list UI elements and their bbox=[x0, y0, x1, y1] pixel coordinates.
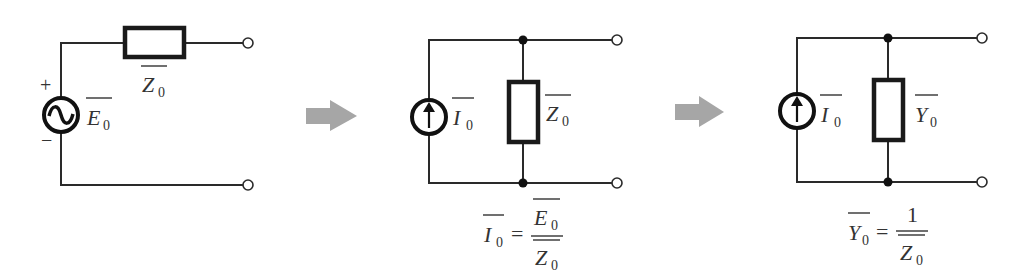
terminal-top bbox=[612, 35, 622, 45]
impedance-z0-resistor bbox=[509, 82, 538, 142]
svg-text:E: E bbox=[86, 105, 101, 130]
circuit-current-source-parallel-impedance: I 0 Z 0 I 0 = E 0 Z 0 bbox=[412, 35, 622, 273]
source-transformation-diagram: + − E 0 Z 0 I bbox=[0, 0, 1029, 277]
svg-text:=: = bbox=[511, 221, 523, 246]
label-z0: Z 0 bbox=[545, 95, 571, 129]
wire-bottom bbox=[61, 133, 243, 185]
transform-arrow-icon bbox=[306, 100, 357, 131]
transform-arrow-icon bbox=[675, 96, 724, 127]
svg-text:0: 0 bbox=[862, 233, 869, 248]
svg-text:0: 0 bbox=[103, 118, 110, 133]
label-e0: E 0 bbox=[86, 98, 112, 133]
svg-text:Z: Z bbox=[900, 240, 913, 265]
current-source-arrow-icon bbox=[780, 94, 814, 128]
terminal-bottom bbox=[612, 178, 622, 188]
svg-text:0: 0 bbox=[496, 235, 503, 250]
svg-text:=: = bbox=[876, 219, 888, 244]
svg-text:Z: Z bbox=[535, 245, 548, 270]
svg-text:0: 0 bbox=[466, 118, 473, 133]
junction-dot-top bbox=[884, 34, 893, 43]
svg-text:0: 0 bbox=[930, 115, 937, 130]
junction-dot-bottom bbox=[519, 179, 528, 188]
circuit-voltage-source-series: + − E 0 Z 0 bbox=[40, 28, 253, 190]
formula-i0-equals-e0-over-z0: I 0 = E 0 Z 0 bbox=[483, 199, 563, 273]
ac-voltage-source-icon bbox=[44, 98, 78, 132]
svg-text:I: I bbox=[483, 222, 493, 247]
svg-text:Z: Z bbox=[546, 101, 559, 126]
svg-text:0: 0 bbox=[551, 258, 558, 273]
current-source-arrow-icon bbox=[412, 100, 446, 134]
svg-text:0: 0 bbox=[916, 253, 923, 268]
label-i0: I 0 bbox=[820, 95, 842, 130]
svg-text:I: I bbox=[820, 102, 830, 127]
terminal-bottom bbox=[243, 180, 253, 190]
terminal-top bbox=[977, 33, 987, 43]
svg-text:1: 1 bbox=[907, 202, 918, 227]
svg-text:I: I bbox=[452, 105, 462, 130]
wire-top-left bbox=[61, 43, 123, 97]
label-z0: Z 0 bbox=[141, 66, 167, 100]
formula-y0-equals-1-over-z0: Y 0 = 1 Z 0 bbox=[848, 202, 928, 268]
svg-text:Y: Y bbox=[848, 220, 863, 245]
terminal-top bbox=[243, 38, 253, 48]
terminal-bottom bbox=[977, 177, 987, 187]
svg-text:0: 0 bbox=[834, 115, 841, 130]
minus-sign: − bbox=[41, 129, 52, 151]
svg-text:E: E bbox=[533, 205, 548, 230]
junction-dot-bottom bbox=[884, 178, 893, 187]
impedance-z0-resistor bbox=[125, 28, 184, 57]
svg-text:Z: Z bbox=[142, 72, 155, 97]
label-i0: I 0 bbox=[452, 98, 474, 133]
svg-text:0: 0 bbox=[562, 114, 569, 129]
circuit-current-source-parallel-admittance: I 0 Y 0 Y 0 = 1 Z 0 bbox=[780, 33, 987, 268]
svg-text:Y: Y bbox=[915, 102, 930, 127]
label-y0: Y 0 bbox=[915, 95, 938, 130]
plus-sign: + bbox=[40, 74, 51, 96]
admittance-y0-resistor bbox=[874, 80, 903, 140]
svg-text:0: 0 bbox=[551, 218, 558, 233]
svg-text:0: 0 bbox=[158, 85, 165, 100]
junction-dot-top bbox=[519, 36, 528, 45]
